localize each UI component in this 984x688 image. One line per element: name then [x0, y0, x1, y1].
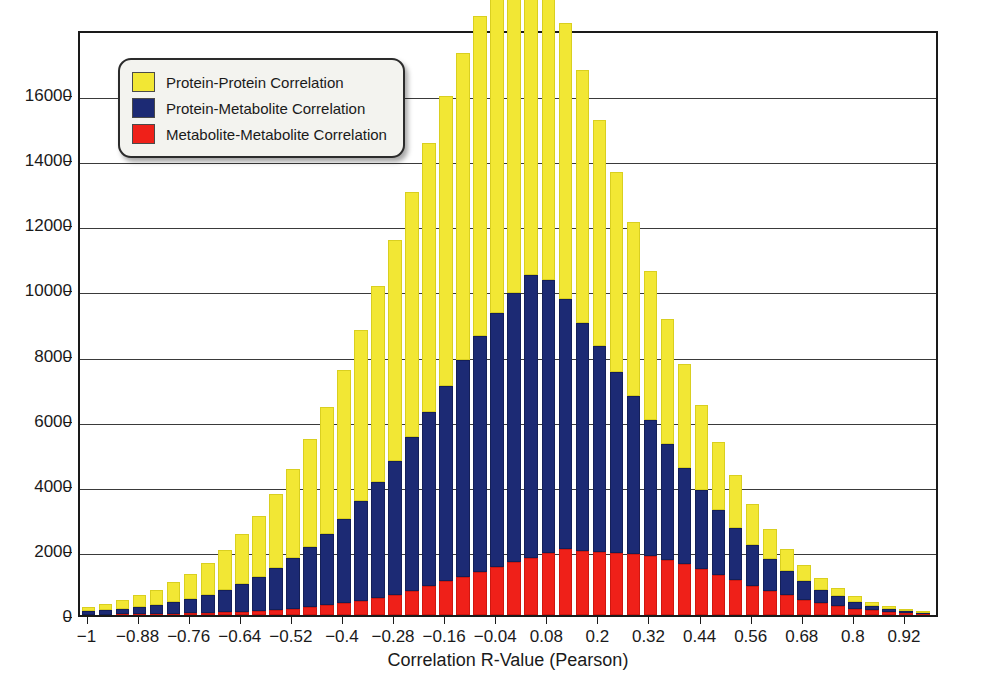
bar-stack — [899, 29, 913, 615]
bar-segment — [490, 567, 504, 615]
x-tick-mark — [189, 617, 190, 624]
x-tick-mark — [240, 617, 241, 624]
bar-segment — [899, 611, 913, 613]
bar-stack — [507, 29, 521, 615]
bar-stack — [422, 29, 436, 615]
bar-stack — [610, 29, 624, 615]
y-tick-mark — [64, 357, 72, 358]
bar-segment — [371, 482, 385, 598]
x-tick-label: −0.4 — [325, 627, 359, 647]
bar-segment — [337, 370, 351, 518]
bar-stack — [473, 29, 487, 615]
bar-segment — [371, 598, 385, 615]
legend-label: Protein-Protein Correlation — [166, 74, 344, 91]
legend-item: Metabolite-Metabolite Correlation — [132, 121, 387, 147]
bar-segment — [252, 611, 266, 615]
bar-segment — [882, 612, 896, 615]
y-tick-mark — [64, 552, 72, 553]
bar-segment — [593, 346, 607, 551]
bar-stack — [695, 29, 709, 615]
bar-segment — [610, 372, 624, 554]
x-tick-mark — [904, 617, 905, 624]
bar-segment — [269, 494, 283, 568]
legend-swatch-icon — [132, 124, 155, 144]
bar-segment — [524, 275, 538, 558]
bar-segment — [252, 577, 266, 611]
bar-segment — [644, 271, 658, 420]
bar-segment — [899, 609, 913, 611]
bar-segment — [184, 599, 198, 614]
chart-legend: Protein-Protein CorrelationProtein-Metab… — [118, 58, 405, 158]
y-tick-mark — [64, 422, 72, 423]
bar-segment — [286, 558, 300, 608]
bar-stack — [627, 29, 641, 615]
bar-stack — [490, 29, 504, 615]
bar-segment — [729, 475, 743, 528]
legend-item: Protein-Metabolite Correlation — [132, 95, 387, 121]
bar-segment — [286, 609, 300, 616]
x-tick-label: −0.88 — [116, 627, 159, 647]
bar-segment — [507, 0, 521, 293]
x-tick-mark — [138, 617, 139, 624]
bar-segment — [814, 603, 828, 615]
y-tick-mark — [64, 96, 72, 97]
bar-stack — [644, 29, 658, 615]
bar-segment — [473, 336, 487, 572]
bar-segment — [303, 607, 317, 615]
bar-segment — [542, 553, 556, 615]
bar-segment — [763, 559, 777, 591]
bar-segment — [167, 582, 181, 602]
bar-segment — [831, 588, 845, 596]
bar-stack — [865, 29, 879, 615]
bar-segment — [490, 0, 504, 313]
bar-segment — [797, 581, 811, 599]
bar-segment — [320, 407, 334, 534]
bar-segment — [627, 222, 641, 396]
bar-segment — [286, 469, 300, 559]
bar-segment — [201, 613, 215, 615]
x-tick-label: 0.2 — [586, 627, 610, 647]
bar-segment — [439, 581, 453, 615]
bar-segment — [780, 571, 794, 595]
x-tick-mark — [700, 617, 701, 624]
bar-segment — [218, 590, 232, 613]
bar-segment — [610, 172, 624, 372]
bar-segment — [405, 591, 419, 615]
bar-segment — [746, 504, 760, 545]
legend-label: Protein-Metabolite Correlation — [166, 100, 365, 117]
bar-segment — [627, 554, 641, 615]
bar-segment — [303, 547, 317, 607]
x-tick-label: 0.8 — [841, 627, 865, 647]
bar-segment — [559, 299, 573, 549]
legend-swatch-icon — [132, 98, 155, 118]
bar-segment — [354, 330, 368, 501]
bar-segment — [405, 192, 419, 437]
bar-segment — [882, 609, 896, 612]
bar-segment — [865, 606, 879, 611]
bar-stack — [746, 29, 760, 615]
bar-segment — [133, 595, 147, 606]
bar-stack — [542, 29, 556, 615]
x-tick-label: −0.16 — [423, 627, 466, 647]
bar-segment — [456, 53, 470, 360]
bar-segment — [354, 501, 368, 601]
bar-segment — [678, 564, 692, 615]
x-tick-label: 0.68 — [785, 627, 818, 647]
bar-segment — [422, 143, 436, 412]
bar-stack — [593, 29, 607, 615]
bar-segment — [235, 612, 249, 615]
bar-segment — [201, 595, 215, 613]
bar-segment — [695, 490, 709, 569]
bar-segment — [729, 580, 743, 615]
bar-segment — [848, 596, 862, 602]
x-tick-label: 0.92 — [887, 627, 920, 647]
bar-segment — [763, 529, 777, 560]
bar-segment — [763, 591, 777, 615]
bar-segment — [524, 0, 538, 275]
bar-stack — [405, 29, 419, 615]
bar-stack — [729, 29, 743, 615]
bar-segment — [661, 560, 675, 615]
y-axis: 0200040006000800010000120001400016000 — [0, 31, 72, 617]
x-tick-label: −0.04 — [474, 627, 517, 647]
legend-label: Metabolite-Metabolite Correlation — [166, 126, 387, 143]
